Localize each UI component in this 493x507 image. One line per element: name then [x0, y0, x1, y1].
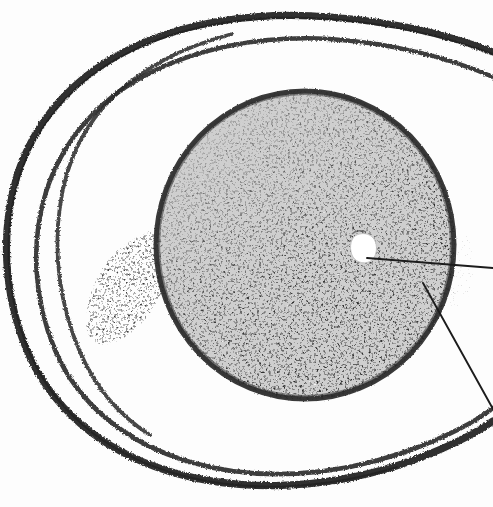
figure-plate — [0, 0, 493, 507]
ovum-body — [155, 90, 455, 400]
left-granular-patch-wisps — [84, 228, 144, 338]
micrograph-canvas — [0, 0, 493, 507]
